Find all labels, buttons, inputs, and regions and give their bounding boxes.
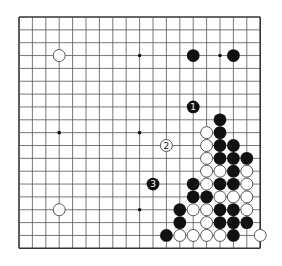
white-stone xyxy=(241,191,253,203)
white-stone xyxy=(214,191,226,203)
black-stone xyxy=(227,203,240,216)
black-stone xyxy=(214,178,227,191)
black-stone xyxy=(187,49,200,62)
go-board-diagram: 123 xyxy=(0,0,282,266)
black-stone xyxy=(240,152,253,165)
black-stone xyxy=(227,165,240,178)
black-stone xyxy=(214,152,227,165)
white-stone xyxy=(201,178,213,190)
white-stone xyxy=(53,50,65,62)
move-number-label: 1 xyxy=(190,102,196,112)
black-stone xyxy=(227,139,240,152)
white-stone xyxy=(214,229,226,241)
white-stone xyxy=(201,127,213,139)
black-stone xyxy=(227,229,240,242)
white-stone xyxy=(201,140,213,152)
star-point xyxy=(138,131,142,135)
star-point xyxy=(138,54,142,58)
black-stone xyxy=(227,152,240,165)
white-stone xyxy=(214,165,226,177)
star-point xyxy=(138,208,142,212)
black-stone xyxy=(160,229,173,242)
move-number-label: 3 xyxy=(150,179,156,189)
black-stone xyxy=(214,203,227,216)
white-stone xyxy=(187,229,199,241)
black-stone xyxy=(227,216,240,229)
move-3-stone: 3 xyxy=(147,178,160,191)
black-stone xyxy=(187,191,200,204)
move-2-stone: 2 xyxy=(160,140,172,152)
white-stone xyxy=(201,165,213,177)
go-board[interactable]: 123 xyxy=(0,0,282,266)
black-stone xyxy=(173,216,186,229)
white-stone xyxy=(201,204,213,216)
white-stone xyxy=(201,152,213,164)
star-point xyxy=(57,131,61,135)
white-stone xyxy=(227,191,239,203)
white-stone xyxy=(254,229,266,241)
black-stone xyxy=(240,216,253,229)
star-point xyxy=(218,54,222,58)
black-stone xyxy=(214,216,227,229)
white-stone xyxy=(241,178,253,190)
black-stone xyxy=(227,49,240,62)
black-stone xyxy=(214,113,227,126)
black-stone xyxy=(187,178,200,191)
move-1-stone: 1 xyxy=(187,101,200,114)
move-number-label: 2 xyxy=(164,141,170,151)
white-stone xyxy=(241,165,253,177)
white-stone xyxy=(241,204,253,216)
black-stone xyxy=(227,178,240,191)
white-stone xyxy=(201,229,213,241)
white-stone xyxy=(174,229,186,241)
white-stone xyxy=(201,217,213,229)
black-stone xyxy=(214,139,227,152)
black-stone xyxy=(173,203,186,216)
white-stone xyxy=(53,204,65,216)
black-stone xyxy=(200,191,213,204)
black-stone xyxy=(214,126,227,139)
white-stone xyxy=(187,204,199,216)
